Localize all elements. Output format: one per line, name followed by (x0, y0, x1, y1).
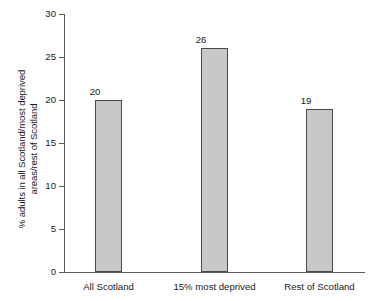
y-tick-mark-5 (59, 229, 64, 230)
x-category-label-rest-of-scotland: Rest of Scotland (260, 281, 373, 292)
y-tick-label-10: 10 (16, 181, 56, 191)
x-category-label-all-scotland: All Scotland (49, 281, 169, 292)
y-tick-label-0: 0 (16, 267, 56, 277)
bar-15-percent-most-deprived[interactable] (201, 48, 228, 272)
x-category-label-15-percent-most-deprived: 15% most deprived (155, 281, 275, 292)
y-tick-mark-10 (59, 186, 64, 187)
bar-value-15-percent-most-deprived: 26 (181, 34, 221, 45)
bar-rest-of-scotland[interactable] (306, 109, 333, 272)
y-axis-line (64, 14, 65, 272)
y-tick-mark-30 (59, 14, 64, 15)
y-tick-mark-20 (59, 100, 64, 101)
y-tick-label-5: 5 (16, 224, 56, 234)
y-tick-label-20: 20 (16, 95, 56, 105)
y-tick-label-15: 15 (16, 138, 56, 148)
y-tick-mark-0 (59, 272, 64, 273)
y-tick-mark-15 (59, 143, 64, 144)
y-tick-label-25: 25 (16, 52, 56, 62)
bar-all-scotland[interactable] (95, 100, 122, 272)
bar-chart-figure: % adults in all Scotland/most deprived a… (0, 0, 373, 301)
y-tick-label-30: 30 (16, 9, 56, 19)
x-axis-line (64, 272, 365, 273)
plot-area: 0 5 10 15 20 25 30 20 All Scotland 26 15… (0, 0, 373, 301)
y-tick-mark-25 (59, 57, 64, 58)
bar-value-rest-of-scotland: 19 (286, 95, 326, 106)
bar-value-all-scotland: 20 (75, 86, 115, 97)
